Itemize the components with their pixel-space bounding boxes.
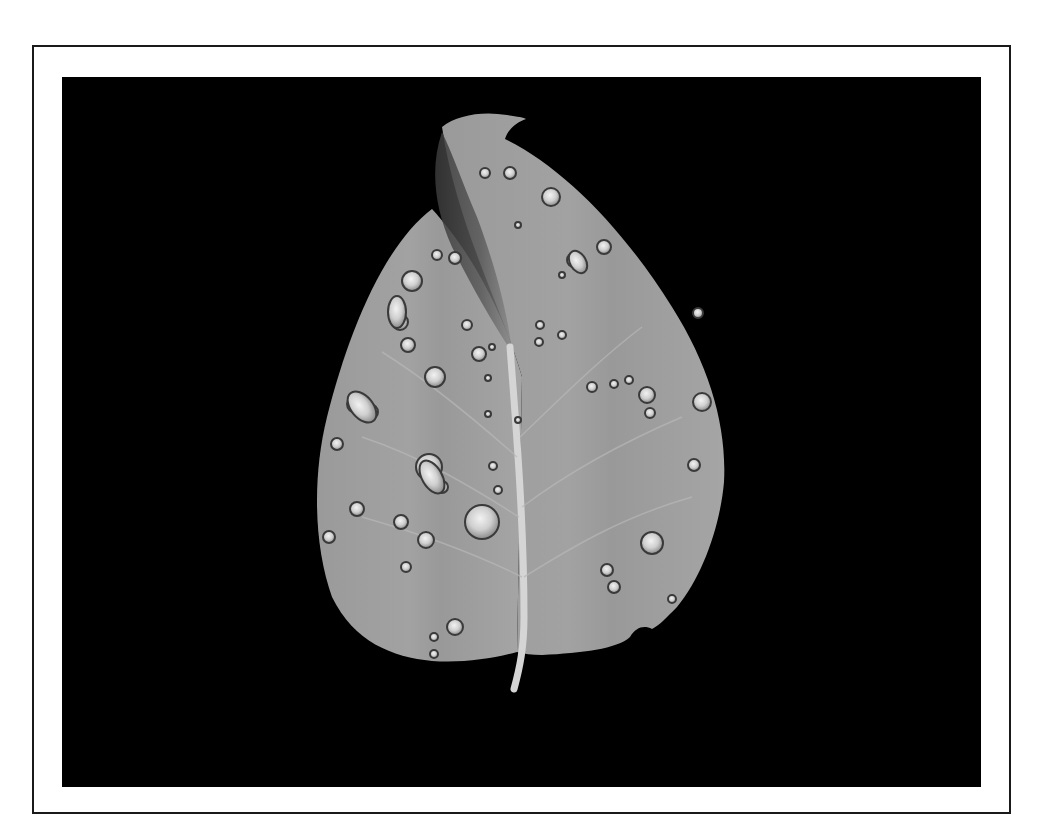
leaf-photograph	[62, 77, 981, 787]
leaf	[317, 114, 724, 690]
leaf-illustration	[62, 77, 981, 787]
